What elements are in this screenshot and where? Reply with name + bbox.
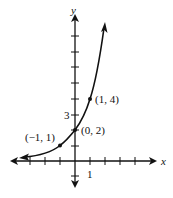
- y-axis-label: y: [70, 4, 76, 16]
- exponential-graph: y x 1 3 (−1, 1) (0, 2) (1, 4): [0, 0, 173, 198]
- point-label-0: (0, 2): [81, 124, 105, 137]
- point-0-2: [73, 128, 77, 132]
- point-neg1-1: [58, 144, 62, 148]
- point-label-neg1: (−1, 1): [25, 131, 55, 144]
- x-axis-label: x: [160, 155, 166, 167]
- x-tick-label-1: 1: [87, 168, 93, 180]
- y-tick-label-3: 3: [64, 109, 70, 121]
- point-1-4: [88, 97, 92, 101]
- point-label-1: (1, 4): [95, 93, 119, 106]
